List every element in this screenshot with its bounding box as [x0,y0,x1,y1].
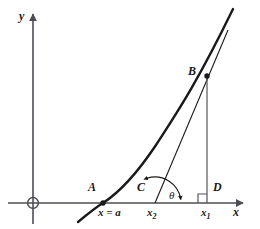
point-a-dot [100,200,105,205]
axes-group [8,14,243,224]
figure-root: A B C D θ x y x = a x2 x1 [0,0,260,229]
point-label-b: B [187,64,196,78]
axis-label-x: x [232,205,239,219]
tick-label-x-equals-a: x = a [97,206,121,218]
tick-label-x1: x1 [200,206,211,221]
point-b-dot [204,73,209,78]
geometry-diagram: A B C D θ x y x = a x2 x1 [0,0,260,229]
right-angle-mark [198,194,207,203]
tangent-line-at-b [155,30,228,203]
point-label-d: D [212,180,222,194]
tick-label-x1-subscript: 1 [207,212,211,221]
tick-label-x2: x2 [146,206,157,221]
tick-label-x2-subscript: 2 [152,212,157,221]
axis-label-y: y [17,9,25,23]
point-label-c: C [137,180,146,194]
exponential-curve [78,9,233,222]
point-label-a: A [87,180,96,194]
angle-theta-label: θ [169,189,175,201]
theta-arc [147,177,181,199]
